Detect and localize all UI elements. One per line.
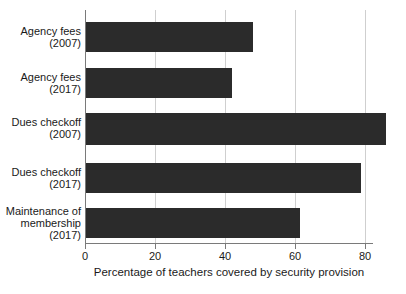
x-tick-label-0: 0	[82, 250, 88, 262]
category-label-agency-fees-2007: Agency fees (2007)	[20, 25, 81, 49]
bar-agency-fees-2007	[85, 22, 253, 52]
category-label-agency-fees-2017: Agency fees (2017)	[20, 71, 81, 95]
y-axis-line	[85, 10, 86, 244]
tick-40	[225, 244, 226, 249]
bar-dues-checkoff-2017	[85, 163, 361, 193]
plot-area	[85, 10, 373, 243]
x-tick-label-80: 80	[359, 250, 371, 262]
category-label-dues-checkoff-2007: Dues checkoff (2007)	[11, 116, 81, 140]
x-tick-label-60: 60	[289, 250, 301, 262]
bar-dues-checkoff-2007	[85, 113, 386, 145]
tick-60	[295, 244, 296, 249]
category-label-dues-checkoff-2017: Dues checkoff (2017)	[11, 166, 81, 190]
tick-80	[365, 244, 366, 249]
bar-agency-fees-2017	[85, 68, 232, 98]
tick-0	[85, 244, 86, 249]
bar-maintenance-membership-2017	[85, 208, 300, 238]
tick-20	[155, 244, 156, 249]
x-tick-label-20: 20	[149, 250, 161, 262]
bar-chart: 0 20 40 60 80 Agency fees (2007) Agency …	[0, 0, 406, 294]
category-label-group: Agency fees (2007) Agency fees (2017) Du…	[0, 0, 81, 294]
x-axis-label: Percentage of teachers covered by securi…	[85, 266, 373, 278]
x-tick-label-40: 40	[219, 250, 231, 262]
category-label-maintenance-membership-2017: Maintenance of membership (2017)	[6, 205, 81, 241]
x-axis-line	[85, 243, 373, 244]
